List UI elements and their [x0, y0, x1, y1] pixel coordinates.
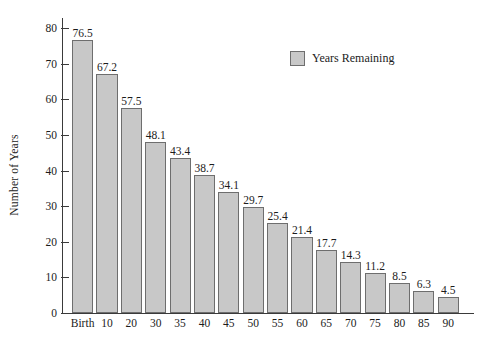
y-axis-tick-label: 10 — [46, 271, 58, 283]
y-axis-tick-label: 0 — [51, 307, 57, 319]
bar-value-label: 67.2 — [97, 61, 117, 73]
bar-value-label: 38.7 — [194, 162, 214, 174]
y-axis-tick-label: 50 — [46, 129, 58, 141]
bar-value-label: 29.7 — [243, 194, 263, 206]
x-axis-tick-label: 90 — [442, 317, 454, 329]
bar: 57.5 — [121, 108, 142, 313]
y-axis-tick-label: 40 — [46, 165, 58, 177]
bar: 6.3 — [413, 291, 434, 313]
x-axis-tick-label: 80 — [394, 317, 406, 329]
x-axis-tick-label: 55 — [272, 317, 284, 329]
y-axis-tick-label: 60 — [46, 93, 58, 105]
x-axis-tick-label: 40 — [199, 317, 211, 329]
x-axis-line — [62, 313, 474, 314]
bar-value-label: 76.5 — [73, 27, 93, 39]
bar-value-label: 6.3 — [417, 278, 431, 290]
bar-value-label: 48.1 — [146, 129, 166, 141]
y-axis-tick-mark — [61, 277, 69, 278]
x-axis-tick-label: 70 — [345, 317, 357, 329]
bar: 43.4 — [170, 158, 191, 313]
x-axis-tick-label: 20 — [126, 317, 138, 329]
y-axis-tick-mark — [61, 99, 69, 100]
y-axis-label: Number of Years — [0, 0, 28, 340]
x-axis-tick-label: 35 — [174, 317, 186, 329]
y-axis-tick-mark — [61, 135, 69, 136]
x-axis-tick-label: 50 — [247, 317, 259, 329]
bar: 29.7 — [243, 207, 264, 313]
x-axis-tick-label: 60 — [296, 317, 308, 329]
x-axis-tick-label: 65 — [321, 317, 333, 329]
bar-value-label: 4.5 — [441, 284, 455, 296]
bar: 67.2 — [96, 74, 117, 313]
x-axis-tick-label: 45 — [223, 317, 235, 329]
bar: 48.1 — [145, 142, 166, 313]
bar-value-label: 8.5 — [392, 270, 406, 282]
bar-chart: Number of Years 01020304050607080 76.567… — [0, 0, 498, 340]
bar: 21.4 — [291, 237, 312, 313]
chart-legend: Years Remaining — [290, 51, 394, 66]
bar-value-label: 25.4 — [268, 210, 288, 222]
bar: 4.5 — [438, 297, 459, 313]
y-axis-tick-label: 20 — [46, 236, 58, 248]
bar: 25.4 — [267, 223, 288, 313]
y-axis-tick-mark — [61, 313, 69, 314]
y-axis-tick-mark — [61, 206, 69, 207]
y-axis-tick-label: 30 — [46, 200, 58, 212]
legend-swatch-years-remaining — [290, 51, 305, 66]
bar: 11.2 — [365, 273, 386, 313]
y-axis-tick-mark — [61, 242, 69, 243]
bar-value-label: 14.3 — [341, 249, 361, 261]
y-axis-tick-label: 70 — [46, 58, 58, 70]
y-axis-tick-mark — [61, 64, 69, 65]
x-axis-tick-label: 85 — [418, 317, 430, 329]
plot-area: 01020304050607080 76.567.257.548.143.438… — [62, 18, 474, 314]
bar: 8.5 — [389, 283, 410, 313]
bar-value-label: 11.2 — [365, 260, 385, 272]
y-axis-line — [62, 18, 63, 314]
bar: 76.5 — [72, 40, 93, 313]
bar: 34.1 — [218, 192, 239, 313]
bar-value-label: 34.1 — [219, 179, 239, 191]
bar-value-label: 57.5 — [121, 95, 141, 107]
x-axis-tick-label: 10 — [101, 317, 113, 329]
x-axis-tick-label: Birth — [71, 317, 95, 329]
bar-value-label: 17.7 — [316, 237, 336, 249]
x-axis-tick-label: 75 — [369, 317, 381, 329]
bar: 17.7 — [316, 250, 337, 313]
bar: 38.7 — [194, 175, 215, 313]
bar-value-label: 43.4 — [170, 145, 190, 157]
y-axis-tick-mark — [61, 28, 69, 29]
y-axis-label-text: Number of Years — [8, 134, 20, 215]
y-axis-tick-mark — [61, 171, 69, 172]
legend-label-years-remaining: Years Remaining — [312, 51, 394, 66]
bar: 14.3 — [340, 262, 361, 313]
bar-value-label: 21.4 — [292, 224, 312, 236]
y-axis-tick-label: 80 — [46, 22, 58, 34]
x-axis-tick-label: 30 — [150, 317, 162, 329]
